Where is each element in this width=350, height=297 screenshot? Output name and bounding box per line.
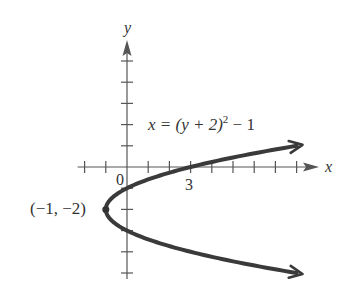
x-tick-label-3: 3: [185, 176, 193, 193]
vertex-dot: [102, 206, 109, 213]
parabola-curve: [106, 146, 297, 273]
labels: y x 0 3 x = (y + 2)2 − 1 (−1, −2): [30, 19, 332, 218]
origin-label: 0: [116, 171, 124, 188]
parabola-graph: y x 0 3 x = (y + 2)2 − 1 (−1, −2): [0, 0, 350, 297]
vertex-label: (−1, −2): [30, 199, 86, 218]
equation-label: x = (y + 2)2 − 1: [147, 113, 255, 134]
equation-lhs: x = (y + 2): [147, 115, 223, 134]
axes: [78, 40, 319, 279]
y-axis-label: y: [122, 19, 132, 37]
equation-rhs: − 1: [228, 115, 255, 134]
x-axis-label: x: [324, 158, 332, 175]
